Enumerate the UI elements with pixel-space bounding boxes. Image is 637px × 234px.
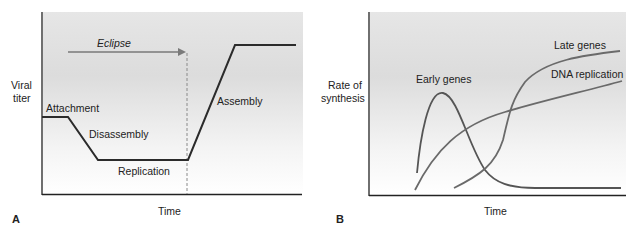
x-label: Time: [158, 205, 181, 217]
y-label-line2: titer: [13, 92, 31, 104]
x-label: Time: [484, 205, 507, 217]
attachment-label: Attachment: [46, 102, 99, 114]
panel-letter-a: A: [12, 213, 20, 225]
y-label-line1: Rate of: [328, 79, 362, 91]
y-label-line2: synthesis: [321, 92, 365, 104]
panel-a: Eclipse Viral titer Attachment Disassemb…: [11, 12, 303, 225]
assembly-label: Assembly: [217, 95, 263, 107]
replication-label: Replication: [118, 165, 170, 177]
dna-replication-label: DNA replication: [551, 68, 624, 80]
y-label-line1: Viral: [11, 79, 32, 91]
early-genes-label: Early genes: [416, 73, 471, 85]
panel-letter-b: B: [336, 213, 344, 225]
disassembly-label: Disassembly: [89, 128, 149, 140]
eclipse-label: Eclipse: [97, 37, 131, 49]
panel-b: Early genes Late genes DNA replication R…: [321, 12, 626, 225]
figure: Eclipse Viral titer Attachment Disassemb…: [0, 0, 637, 234]
late-genes-label: Late genes: [554, 39, 606, 51]
